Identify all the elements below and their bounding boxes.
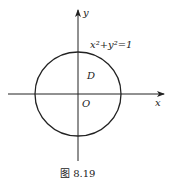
x-axis-label: x <box>155 97 161 108</box>
equation-label: x²+y²=1 <box>90 39 132 50</box>
figure-caption: 图 8.19 <box>60 168 95 179</box>
origin-label: O <box>82 98 90 109</box>
region-label: D <box>86 70 95 81</box>
diagram-canvas: y x x²+y²=1 D O 图 8.19 <box>0 0 170 180</box>
y-axis-label: y <box>82 7 89 18</box>
